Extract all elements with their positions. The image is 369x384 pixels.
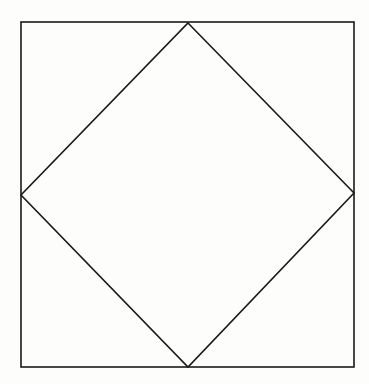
outer-square	[21, 22, 354, 367]
diagram-canvas	[0, 0, 369, 384]
inner-diamond	[21, 23, 354, 367]
